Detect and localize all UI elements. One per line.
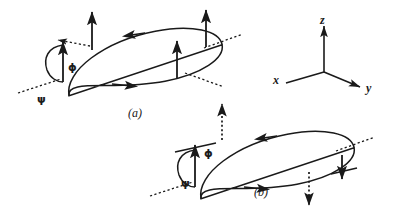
precession-axis-b-right: [336, 137, 375, 151]
angle-label-phi-a: ϕ: [68, 62, 77, 73]
panel-caption-a: (a): [128, 107, 142, 119]
loop-b-direction-arrows: [244, 136, 277, 189]
axis-label-y: y: [366, 82, 371, 94]
angle-label-psi-b: ψ: [181, 178, 190, 189]
panel-caption-b: (b): [254, 186, 268, 198]
loop-a-front-rim: [65, 45, 227, 100]
axis-label-z: z: [320, 14, 325, 26]
moment-arrows-a: [63, 10, 206, 82]
precession-axis-a-lower-right: [185, 73, 224, 87]
angle-label-phi-b: ϕ: [204, 148, 213, 159]
phi-arc-a: [46, 45, 63, 82]
precession-axis-a-left: [18, 79, 61, 93]
figure-root: ϕ ψ (a) ϕ ψ (b) z y x: [0, 0, 400, 217]
precession-axis-a: [18, 34, 243, 93]
angle-label-psi-a: ψ: [37, 94, 46, 105]
node-lines-b: [175, 143, 357, 174]
precession-axis-a-right: [204, 34, 243, 48]
loop-a-direction-arrows: [112, 33, 145, 86]
coordinate-axes: [286, 26, 360, 87]
axis-label-x: x: [273, 74, 279, 86]
loop-b-ring: [192, 122, 359, 203]
axis-x-arrow: [286, 72, 324, 83]
axis-y-arrow: [324, 72, 360, 87]
figure-canvas: [0, 0, 400, 217]
loop-b-front-rim: [197, 148, 359, 203]
panel-a: [18, 10, 243, 100]
loop-a-ring: [60, 19, 227, 100]
